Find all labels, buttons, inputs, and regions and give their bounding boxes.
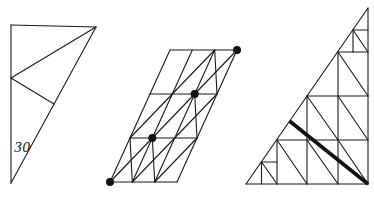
line-segment <box>215 50 217 94</box>
line-segment <box>338 52 368 96</box>
line-segment <box>155 138 197 182</box>
grid-dot <box>191 90 199 98</box>
line-segment <box>11 27 96 183</box>
line-segment <box>130 94 172 138</box>
geometry-diagram: 30 <box>0 0 374 198</box>
line-segment <box>11 25 96 27</box>
line-segment <box>307 96 338 140</box>
line-segment <box>262 162 278 184</box>
line-segment <box>132 50 192 182</box>
line-segment <box>177 50 237 182</box>
line-segment <box>338 96 368 140</box>
grid-dot <box>148 134 156 142</box>
line-segment <box>152 138 154 182</box>
thick-line-segment <box>290 121 369 184</box>
line-segment <box>155 50 215 182</box>
line-segment <box>195 94 197 138</box>
line-segment <box>172 50 214 94</box>
line-segment <box>11 27 96 78</box>
line-segment <box>277 140 307 184</box>
figure-subdivided-right-triangle-with-thick-altitude <box>246 8 368 184</box>
grid-dot <box>233 46 241 54</box>
figure-sheared-parallelogram-grid-with-diagonal-dots <box>106 46 241 186</box>
angle-label: 30 <box>14 140 31 155</box>
line-segment <box>353 30 368 52</box>
figure-right-triangle-with-30-degree-angle: 30 <box>11 25 96 183</box>
line-segment <box>130 138 132 182</box>
grid-dot <box>106 178 114 186</box>
line-segment <box>110 50 170 182</box>
diagram-page: 30 <box>0 0 374 198</box>
line-segment <box>11 78 54 104</box>
